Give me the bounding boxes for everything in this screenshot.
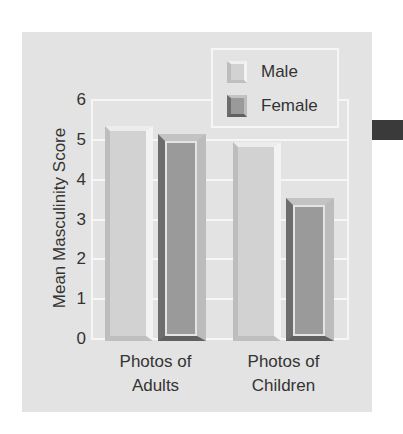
legend-item-female: Female bbox=[227, 92, 318, 120]
legend: Male Female bbox=[211, 48, 339, 128]
bar-male-adults bbox=[105, 126, 153, 341]
legend-label-male: Male bbox=[261, 62, 298, 82]
legend-item-male: Male bbox=[227, 58, 298, 86]
legend-swatch-male bbox=[227, 61, 247, 83]
y-tick-label: 4 bbox=[70, 170, 86, 190]
bar-female-adults bbox=[158, 134, 206, 341]
y-tick-label: 1 bbox=[70, 289, 86, 309]
legend-swatch-female bbox=[227, 95, 247, 117]
y-tick-label: 5 bbox=[70, 130, 86, 150]
y-tick-label: 6 bbox=[70, 90, 86, 110]
y-tick-label: 3 bbox=[70, 210, 86, 230]
x-tick-label: Photos ofAdults bbox=[96, 350, 216, 398]
y-axis-label: Mean Masculinity Score bbox=[50, 118, 70, 318]
page-edge-block bbox=[372, 120, 403, 140]
bar-male-children bbox=[233, 142, 281, 341]
y-tick-label: 2 bbox=[70, 249, 86, 269]
legend-label-female: Female bbox=[261, 96, 318, 116]
y-tick-label: 0 bbox=[70, 329, 86, 349]
x-tick-label: Photos ofChildren bbox=[224, 350, 344, 398]
bar-female-children bbox=[286, 198, 334, 341]
